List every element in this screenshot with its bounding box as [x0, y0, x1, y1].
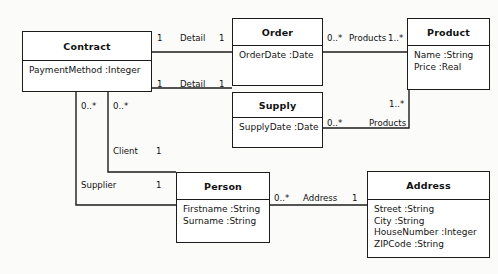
edge-label-lbl-detail-supply-tgt: 1 [219, 79, 224, 89]
class-attribute: OrderDate :Date [239, 50, 322, 62]
class-attribute: Name :String [414, 50, 489, 62]
edge-label-lbl-prod-supply-src: 0..* [327, 118, 342, 128]
class-box-contract[interactable]: ContractPaymentMethod :Integer [22, 31, 152, 92]
edge-label-lbl-detail-order-src: 1 [157, 33, 162, 43]
class-attributes-contract: PaymentMethod :Integer [23, 61, 151, 77]
edge-label-lbl-detail-order-tgt: 1 [219, 33, 224, 43]
class-box-supply[interactable]: SupplySupplyDate :Date [232, 92, 323, 148]
class-name-order: Order [233, 19, 322, 46]
class-name-person: Person [177, 173, 269, 200]
uml-class-diagram: ContractPaymentMethod :IntegerOrderOrder… [0, 0, 498, 274]
class-attribute: PaymentMethod :Integer [29, 65, 151, 77]
edge-label-lbl-prod-order-name: Products [349, 33, 386, 43]
edge-label-lbl-client-src: 0..* [113, 101, 128, 111]
class-attribute: ZIPCode :String [374, 239, 489, 251]
class-attributes-order: OrderDate :Date [233, 46, 322, 62]
edge-label-lbl-prod-order-tgt: 1..* [388, 33, 403, 43]
edge-label-lbl-supplier-tgt: 1 [156, 180, 161, 190]
class-attribute: City :String [374, 216, 489, 228]
class-attribute: Surname :String [183, 216, 269, 228]
edge-label-lbl-detail-order-name: Detail [180, 33, 205, 43]
edge-label-lbl-detail-supply-name: Detail [180, 79, 205, 89]
class-name-address: Address [368, 172, 489, 200]
class-name-contract: Contract [23, 32, 151, 61]
class-attribute: Firstname :String [183, 204, 269, 216]
class-attributes-address: Street :StringCity :StringHouseNumber :I… [368, 200, 489, 250]
class-attribute: HouseNumber :Integer [374, 227, 489, 239]
edge-label-lbl-supplier-src: 0..* [81, 101, 96, 111]
edge-label-lbl-prod-supply-name: Products [369, 118, 406, 128]
edge-label-lbl-detail-supply-src: 1 [157, 79, 162, 89]
class-name-supply: Supply [233, 93, 322, 118]
class-box-order[interactable]: OrderOrderDate :Date [232, 18, 323, 86]
class-box-product[interactable]: ProductName :StringPrice :Real [407, 18, 490, 90]
edge-label-lbl-address-tgt: 1 [352, 193, 357, 203]
class-attributes-person: Firstname :StringSurname :String [177, 200, 269, 227]
class-attribute: SupplyDate :Date [239, 122, 322, 134]
class-attributes-product: Name :StringPrice :Real [408, 46, 489, 73]
class-attribute: Price :Real [414, 62, 489, 74]
edge-label-lbl-client-name: Client [113, 146, 138, 156]
edge-label-lbl-address-name: Address [303, 193, 337, 203]
edge-label-lbl-prod-order-src: 0..* [327, 33, 342, 43]
class-attributes-supply: SupplyDate :Date [233, 118, 322, 134]
class-box-person[interactable]: PersonFirstname :StringSurname :String [176, 172, 270, 243]
edge-label-lbl-supplier-name: Supplier [81, 180, 116, 190]
edge-label-lbl-client-tgt: 1 [156, 146, 161, 156]
class-name-product: Product [408, 19, 489, 46]
class-box-address[interactable]: AddressStreet :StringCity :StringHouseNu… [367, 171, 490, 258]
class-attribute: Street :String [374, 204, 489, 216]
edge-label-lbl-address-src: 0..* [274, 193, 289, 203]
edge-label-lbl-prod-supply-tgt: 1..* [389, 99, 404, 109]
